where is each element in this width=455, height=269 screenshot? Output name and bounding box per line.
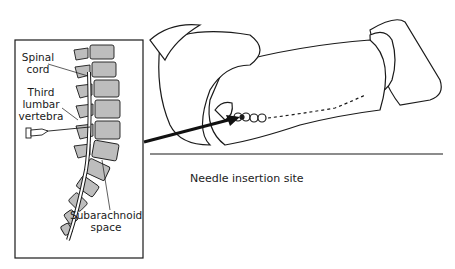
label-text: Third: [16, 86, 66, 98]
label-text: vertebra: [16, 110, 66, 122]
label-subarachnoid-space: Subarachnoid space: [70, 209, 142, 233]
label-text: Subarachnoid: [70, 209, 142, 221]
label-third-lumbar-vertebra: Third lumbar vertebra: [16, 86, 66, 122]
lumbar-puncture-diagram: Spinal cord Third lumbar vertebra Subara…: [0, 0, 455, 269]
label-spinal-cord: Spinal cord: [20, 51, 56, 75]
illustration: [0, 0, 455, 269]
patient-figure: [150, 20, 441, 145]
label-text: lumbar: [16, 98, 66, 110]
label-text: Spinal: [20, 51, 56, 63]
label-text: space: [70, 221, 142, 233]
caption-needle-insertion-site: Needle insertion site: [190, 172, 304, 185]
label-text: cord: [20, 63, 56, 75]
